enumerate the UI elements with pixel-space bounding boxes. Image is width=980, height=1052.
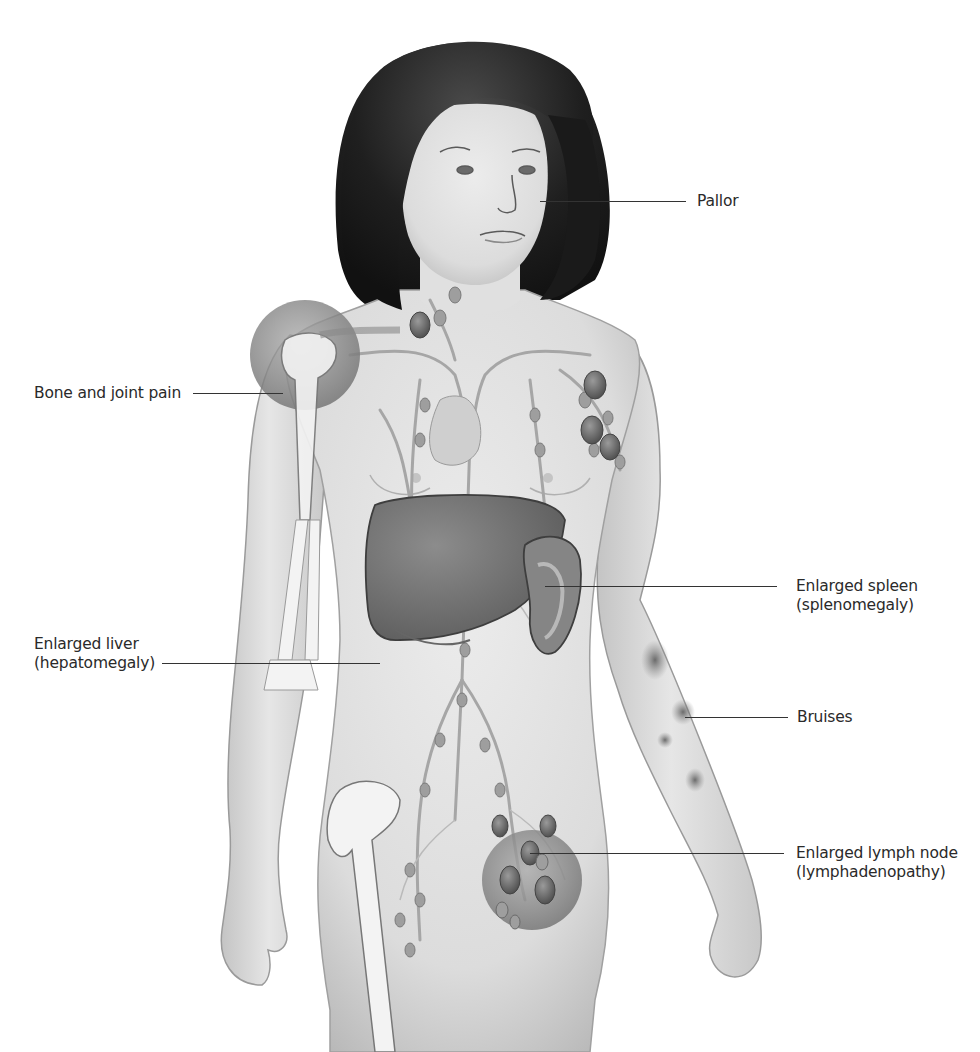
leader-line-spleen (545, 586, 777, 587)
thymus (430, 396, 481, 465)
leader-line-bone-joint-pain (193, 393, 283, 394)
leader-line-liver (162, 663, 380, 664)
leader-line-pallor (540, 201, 686, 202)
label-enlarged-lymph-node: Enlarged lymph node (lymphadenopathy) (796, 844, 958, 882)
label-enlarged-liver: Enlarged liver (hepatomegaly) (34, 635, 155, 673)
anatomical-illustration (0, 0, 980, 1052)
label-enlarged-spleen: Enlarged spleen (splenomegaly) (796, 577, 918, 615)
label-pallor: Pallor (697, 192, 738, 211)
label-bruises: Bruises (797, 708, 852, 727)
leader-line-lymph-node (530, 853, 784, 854)
leader-line-bruises (685, 717, 788, 718)
label-bone-joint-pain: Bone and joint pain (34, 384, 181, 403)
